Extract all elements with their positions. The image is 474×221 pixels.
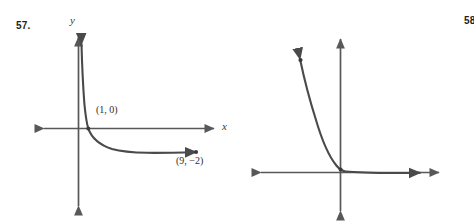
graph-panel-58: 58. y x (−4, 16) (0, 1) (237, 0, 474, 221)
point-dot-0-1 (339, 168, 343, 172)
point-dot-neg4-16 (298, 58, 302, 62)
graph-58-svg (0, 0, 474, 221)
curve-58 (300, 59, 420, 173)
worksheet-page: 57. y x (1, 0) (9, −2) (0, 0, 474, 221)
